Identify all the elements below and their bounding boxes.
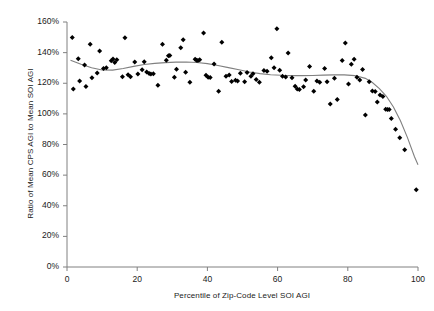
x-tick-label-group: 020406080100 bbox=[0, 0, 434, 311]
x-tick-label: 80 bbox=[333, 274, 363, 284]
x-tick-label: 60 bbox=[263, 274, 293, 284]
x-tick-label: 0 bbox=[52, 274, 82, 284]
y-axis-title: Ratio of Mean CPS AGI to Mean SOI AGI bbox=[26, 24, 35, 264]
chart-container: 0%20%40%60%80%100%120%140%160% 020406080… bbox=[0, 0, 434, 311]
x-tick-label: 20 bbox=[122, 274, 152, 284]
x-tick-label: 40 bbox=[192, 274, 222, 284]
x-tick-label: 100 bbox=[403, 274, 433, 284]
x-axis-title: Percentile of Zip-Code Level SOI AGI bbox=[67, 291, 417, 300]
